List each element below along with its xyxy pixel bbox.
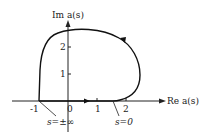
x-axis-label: Re a(s) [167,96,199,106]
x-tick-label-1: 1 [95,104,101,114]
x-axis-arrow-icon [159,99,166,104]
arc-direction-arrow-icon [120,37,126,43]
leader-s-inf [39,101,56,116]
x-tick-label-neg1: -1 [30,104,39,114]
leader-s-0 [113,101,119,116]
annotation-s-inf: s=±∞ [47,117,74,127]
axis-direction-arrow-icon [84,99,90,104]
nyquist-diagram: -1 0 1 2 1 2 Im a(s) Re a(s) s=±∞ s=0 [0,0,210,138]
x-tick-label-0: 0 [67,104,73,114]
y-tick-label-1: 1 [60,69,66,79]
y-tick-label-2: 2 [60,42,66,52]
y-axis-arrow-icon [66,20,71,27]
x-tick-label-2: 2 [123,104,129,114]
y-axis-label: Im a(s) [52,10,84,20]
annotation-s-0: s=0 [115,117,133,127]
